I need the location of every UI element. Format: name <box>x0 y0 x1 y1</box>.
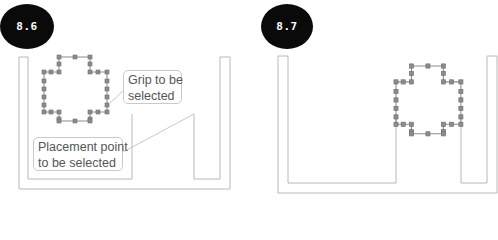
moved-object-grips <box>394 64 463 136</box>
callout-text: Placement point <box>38 139 118 155</box>
callout-text: selected <box>128 88 177 104</box>
callout-grip: Grip to be selected <box>123 70 182 104</box>
callout-placement-point: Placement point to be selected <box>33 137 123 171</box>
container-outline <box>278 56 497 193</box>
callout-text: to be selected <box>38 155 118 171</box>
callout-text: Grip to be <box>128 72 177 88</box>
selected-object-grips <box>42 55 109 123</box>
